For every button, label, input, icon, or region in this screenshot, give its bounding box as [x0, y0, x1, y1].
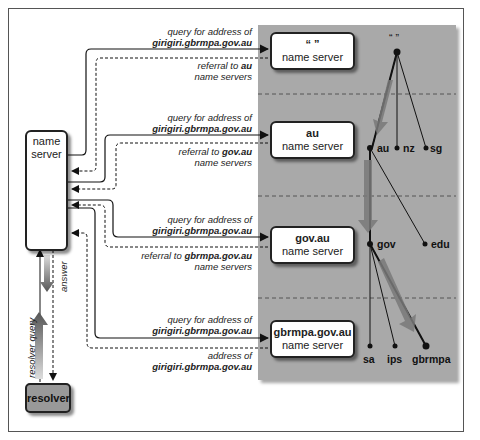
reply-label-1: referral to auname servers	[12, 60, 252, 82]
tree-node-edu: edu	[431, 238, 450, 250]
reply-label-2: referral to gov.auname servers	[12, 146, 252, 168]
server-name: gbrmpa.gov.au	[272, 326, 353, 339]
server-sub: name server	[282, 51, 343, 63]
query-label-2: query for address ofgirigiri.gbrmpa.gov.…	[12, 112, 252, 134]
server-name: “ ”	[272, 38, 353, 51]
query-label-3: query for address ofgirigiri.gbrmpa.gov.…	[12, 214, 252, 236]
gbrmpa-name-server: gbrmpa.gov.au name server	[270, 320, 355, 358]
reply-label-4: address ofgirigiri.gbrmpa.gov.au	[12, 350, 252, 372]
query-label-4: query for address ofgirigiri.gbrmpa.gov.…	[12, 314, 252, 336]
tree-node-gov: gov	[377, 238, 396, 250]
tree-node-sa: sa	[363, 353, 375, 365]
server-sub: name server	[282, 339, 343, 351]
tree-node-ips: ips	[387, 353, 402, 365]
tree-node-gbrmpa: gbrmpa	[412, 353, 451, 365]
root-name-server: “ ” name server	[270, 32, 355, 70]
server-name: au	[272, 127, 353, 140]
tree-node-sg: sg	[430, 142, 442, 154]
tree-root-label: “ ”	[389, 32, 399, 44]
resolver-box: resolver	[25, 383, 71, 413]
reply-label-3: referral to gbrmpa.gov.auname servers	[12, 250, 252, 272]
query-label-1: query for address ofgirigiri.gbrmpa.gov.…	[12, 26, 252, 48]
server-sub: name server	[282, 245, 343, 257]
server-sub: name server	[282, 140, 343, 152]
server-name: gov.au	[272, 232, 353, 245]
au-name-server: au name server	[270, 121, 355, 159]
gov-au-name-server: gov.au name server	[270, 226, 355, 264]
tree-node-nz: nz	[403, 142, 415, 154]
tree-node-au: au	[377, 142, 389, 154]
